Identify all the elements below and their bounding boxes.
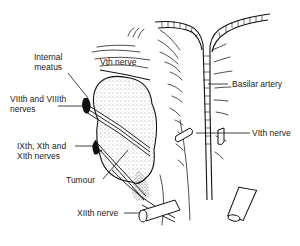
label-viith-viiith-line1: VIIth and VIIIth <box>10 94 66 104</box>
label-xiith-nerve: XIIth nerve <box>77 208 118 218</box>
label-ixth-xth-xith-nerves: IXth, Xth and XIth nerves <box>17 141 66 161</box>
label-internal-meatus-line2: meatus <box>34 62 62 72</box>
label-internal-meatus-line1: Internal <box>34 52 62 62</box>
basilar-artery <box>155 14 270 200</box>
xiith-nerve-stump <box>139 200 180 222</box>
anatomy-illustration <box>0 0 300 246</box>
label-basilar-artery: Basilar artery <box>232 79 282 89</box>
label-ixth-xth-xith-line2: XIth nerves <box>17 151 66 161</box>
label-tumour: Tumour <box>66 175 95 185</box>
label-vith-nerve: VIth nerve <box>252 128 291 138</box>
label-internal-meatus: Internal meatus <box>34 52 62 72</box>
label-viith-viiith-line2: nerves <box>10 104 66 114</box>
label-vth-nerve: Vth nerve <box>100 57 136 67</box>
label-viith-viiith-nerves: VIIth and VIIIth nerves <box>10 94 66 114</box>
tumour-mass <box>93 76 156 183</box>
leader-internal-meatus <box>68 73 88 98</box>
cut-vessel-segment <box>227 186 256 222</box>
label-ixth-xth-xith-line1: IXth, Xth and <box>17 141 66 151</box>
